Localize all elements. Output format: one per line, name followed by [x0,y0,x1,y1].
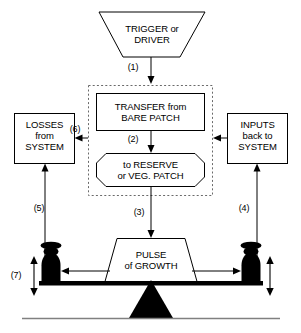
trigger-driver-line2: DRIVER [99,34,205,45]
pawn-weight-right [241,242,262,282]
transfer-bare-patch-label: TRANSFER from BARE PATCH [96,101,205,123]
flow-4-arrowhead [254,164,261,172]
flow-4-label: (4) [232,203,256,214]
flow-7-arrowhead-down [30,288,37,296]
flow-3-arrowhead [148,230,155,238]
inputs-back-to-system-label: INPUTS back to SYSTEM [228,119,287,152]
reserve-line1: to RESERVE [96,159,205,170]
pawn-weight-left [41,242,62,282]
pulse-line2: of GROWTH [112,260,190,271]
flow-2-label: (2) [118,134,148,145]
inputs-to-region-arrowhead [213,135,221,142]
pulse-right-arrowhead [233,268,241,275]
transfer-line2: BARE PATCH [96,112,205,123]
reserve-veg-patch-label: to RESERVE or VEG. PATCH [96,159,205,181]
inputs-line2: back to [228,130,287,141]
inputs-line3: SYSTEM [228,141,287,152]
flow-5-arrowhead [42,164,49,172]
flow-7-label: (7) [4,270,28,281]
pulse-line1: PULSE [112,249,190,260]
flow-2-arrowhead [148,145,155,153]
trigger-driver-label: TRIGGER or DRIVER [99,23,205,45]
trigger-driver-line1: TRIGGER or [99,23,205,34]
diagram-canvas: TRIGGER or DRIVER (1) TRANSFER from BARE… [0,0,301,333]
flow-6-arrowhead [75,135,83,142]
flow-7-arrowhead-up [30,256,37,264]
flow-1-arrowhead [148,76,155,84]
reserve-line2: or VEG. PATCH [96,170,205,181]
right-oscillation-arrowhead-down [266,288,273,296]
inputs-line1: INPUTS [228,119,287,130]
flow-1-label: (1) [118,62,148,73]
losses-line3: SYSTEM [15,141,74,152]
pulse-of-growth-label: PULSE of GROWTH [112,249,190,271]
triangle-fulcrum [129,280,173,318]
flow-3-label: (3) [127,207,151,218]
flow-5-label: (5) [27,203,51,214]
pulse-left-arrowhead [61,268,69,275]
flow-6-label: (6) [63,124,87,135]
right-oscillation-arrowhead-up [266,256,273,264]
transfer-line1: TRANSFER from [96,101,205,112]
